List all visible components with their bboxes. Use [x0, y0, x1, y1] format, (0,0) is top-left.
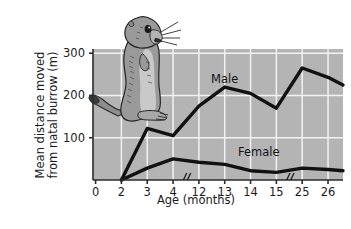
x-axis-tick-label: 25	[295, 185, 310, 199]
x-axis-tick-label: 0	[92, 185, 99, 199]
x-axis-tick-label: 14	[243, 185, 258, 199]
x-axis-tick-label: 15	[269, 185, 284, 199]
y-axis-tick-label: 300	[63, 46, 85, 60]
ground-squirrel-dispersal-chart: 100200300 0234121314152526 Age (months) …	[0, 0, 351, 229]
y-axis-tick-label: 100	[63, 131, 85, 145]
y-axis-title-line-2: from natal burrow (m)	[46, 51, 60, 178]
y-axis-title-line-1: Mean distance moved	[33, 52, 47, 179]
squirrel-eye-highlight	[148, 27, 150, 29]
x-axis-tick-label: 26	[321, 185, 336, 199]
squirrel-eye	[145, 25, 152, 33]
y-axis-tick-label: 200	[63, 88, 85, 102]
series-label-female: Female	[238, 145, 280, 159]
squirrel-ear	[129, 21, 134, 26]
x-axis-title: Age (months)	[157, 193, 235, 207]
series-label-male: Male	[211, 72, 238, 86]
chart-figure: 100200300 0234121314152526 Age (months) …	[0, 0, 351, 229]
x-axis-tick-label: 3	[144, 185, 151, 199]
x-axis-tick-label: 2	[118, 185, 125, 199]
